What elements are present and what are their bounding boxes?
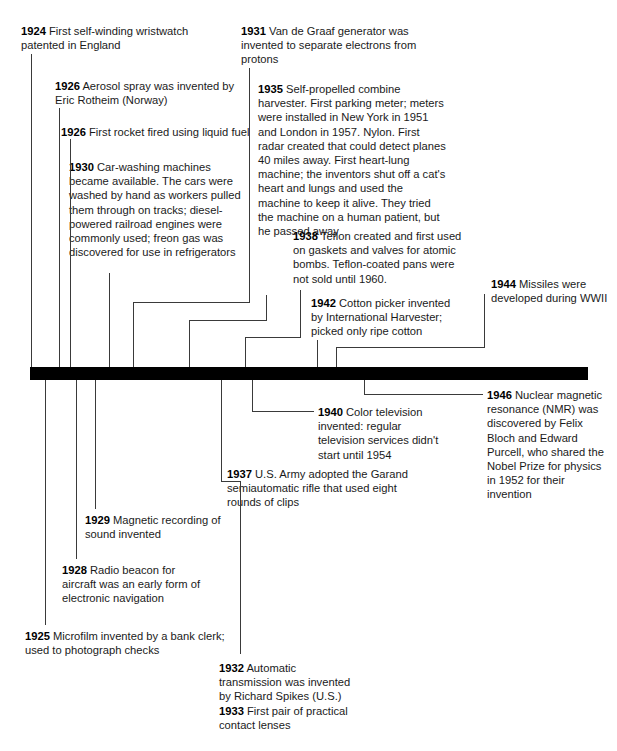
entry-year-1931: 1931 (241, 25, 266, 37)
entry-year-1928: 1928 (62, 564, 87, 576)
entry-year-1925: 1925 (25, 630, 50, 642)
connector-1926-rocket (70, 139, 71, 367)
timeline-entry-1944: 1944 Missiles were developed during WWII (491, 277, 611, 305)
connector-1946-drop (364, 380, 365, 394)
connector-1925 (45, 380, 46, 625)
entry-year-1926-rocket: 1926 (61, 126, 86, 138)
connector-1935-riser (189, 320, 190, 367)
entry-year-1933: 1933 (219, 705, 244, 717)
timeline-entry-1932: 1932 Automatic transmission was invented… (219, 661, 359, 704)
connector-1931-riser (133, 302, 134, 367)
timeline-entry-1931: 1931 Van de Graaf generator was invented… (241, 24, 426, 67)
timeline-entry-1929: 1929 Magnetic recording of sound invente… (85, 513, 245, 541)
connector-1931-drop (249, 68, 250, 302)
timeline-entry-1930: 1930 Car-washing machines became availab… (69, 160, 244, 259)
connector-1928 (76, 380, 77, 559)
entry-year-1944: 1944 (491, 278, 516, 290)
connector-1944-riser (336, 347, 337, 367)
entry-year-1937: 1937 (227, 468, 252, 480)
entry-text-1926-rocket: First rocket fired using liquid fuel (86, 126, 250, 138)
entry-text-1937: U.S. Army adopted the Garand semiautomat… (227, 468, 408, 508)
entry-text-1931: Van de Graaf generator was invented to s… (241, 25, 416, 65)
entry-year-1924: 1924 (21, 25, 46, 37)
timeline-entry-1928: 1928 Radio beacon for aircraft was an ea… (62, 563, 202, 606)
connector-1938-riser (245, 337, 246, 367)
connector-1924 (31, 54, 32, 367)
entry-text-1930: Car-washing machines became available. T… (69, 161, 241, 258)
entry-year-1938: 1938 (293, 230, 318, 242)
connector-1946-elbow (364, 394, 483, 395)
connector-1938-drop (300, 290, 301, 337)
entry-year-1929: 1929 (85, 514, 110, 526)
timeline-entry-1924: 1924 First self-winding wristwatch paten… (21, 24, 221, 52)
connector-1937-drop (221, 380, 222, 482)
timeline-infographic: 1924 First self-winding wristwatch paten… (0, 0, 617, 751)
entry-year-1935: 1935 (258, 83, 283, 95)
connector-1944-elbow (336, 347, 485, 348)
connector-1932-1933 (240, 481, 241, 654)
entry-year-1940: 1940 (318, 406, 343, 418)
entry-text-1935: Self-propelled combine harvester. First … (258, 83, 446, 237)
entry-year-1930: 1930 (69, 161, 94, 173)
timeline-entry-1946: 1946 Nuclear magnetic resonance (NMR) wa… (487, 388, 605, 502)
connector-1942 (317, 340, 318, 367)
timeline-entry-1940: 1940 Color television invented: regular … (318, 405, 450, 462)
connector-1940-elbow (252, 411, 314, 412)
timeline-entry-1925: 1925 Microfilm invented by a bank clerk;… (25, 629, 225, 657)
timeline-entry-1926-rocket: 1926 First rocket fired using liquid fue… (61, 125, 276, 139)
connector-1926-aerosol (59, 108, 60, 367)
entry-year-1942: 1942 (311, 297, 336, 309)
timeline-entry-1942: 1942 Cotton picker invented by Internati… (311, 296, 461, 339)
timeline-entry-1938: 1938 Teflon created and first used on ga… (293, 229, 473, 286)
entry-text-1926-aerosol: Aerosol spray was invented by Eric Rothe… (55, 80, 234, 106)
connector-1929 (95, 380, 96, 509)
connector-1935-elbow (189, 320, 267, 321)
entry-text-1925: Microfilm invented by a bank clerk; used… (25, 630, 225, 656)
entry-text-1946: Nuclear magnetic resonance (NMR) was dis… (487, 389, 604, 500)
entry-year-1926-aerosol: 1926 (55, 80, 80, 92)
timeline-bar (30, 367, 588, 380)
entry-year-1932: 1932 (219, 662, 244, 674)
connector-1937-elbow (221, 481, 240, 482)
connector-1940-drop (252, 380, 253, 412)
connector-1931-elbow (133, 302, 250, 303)
entry-text-1924: First self-winding wristwatch patented i… (21, 25, 188, 51)
timeline-entry-1933: 1933 First pair of practical contact len… (219, 704, 359, 732)
timeline-entry-1937: 1937 U.S. Army adopted the Garand semiau… (227, 467, 427, 510)
entry-text-1938: Teflon created and first used on gaskets… (293, 230, 461, 285)
connector-1930 (109, 273, 110, 367)
connector-1935-drop (266, 295, 267, 320)
entry-year-1946: 1946 (487, 389, 512, 401)
timeline-entry-1935: 1935 Self-propelled combine harvester. F… (258, 82, 448, 238)
connector-1938-elbow (245, 337, 301, 338)
timeline-entry-1926-aerosol: 1926 Aerosol spray was invented by Eric … (55, 79, 235, 107)
connector-1944-drop (484, 294, 485, 348)
